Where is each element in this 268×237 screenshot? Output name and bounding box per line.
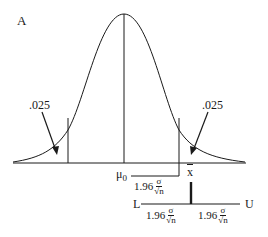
sigma-over-root-n: σ √n bbox=[166, 206, 175, 225]
sample-mean-label: x bbox=[187, 166, 193, 178]
margin-coefficient: 1.96 bbox=[134, 181, 153, 192]
upper-bound-label: U bbox=[245, 198, 254, 210]
mu-subscript: 0 bbox=[122, 173, 127, 183]
sigma-over-root-n: σ √n bbox=[154, 177, 163, 196]
panel-label: A bbox=[17, 14, 26, 27]
margin-bracket bbox=[131, 163, 179, 176]
margin-label-top: 1.96 σ √n bbox=[134, 177, 164, 196]
sigma-over-root-n: σ √n bbox=[218, 206, 227, 225]
margin-label-left: 1.96 σ √n bbox=[146, 206, 176, 225]
margin-label-right: 1.96 σ √n bbox=[198, 206, 228, 225]
lower-bound-label: L bbox=[133, 198, 140, 210]
right-tail-arrow-icon bbox=[190, 112, 208, 155]
mu0-label: μ0 bbox=[116, 168, 127, 183]
normal-curve bbox=[13, 14, 245, 162]
right-tail-label: .025 bbox=[202, 99, 223, 111]
left-tail-label: .025 bbox=[29, 99, 50, 111]
